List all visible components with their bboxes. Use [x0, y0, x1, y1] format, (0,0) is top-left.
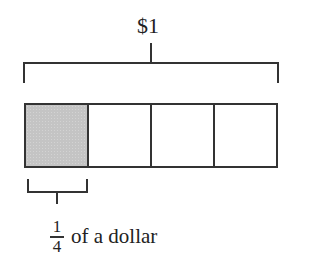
- whole-bracket-tick: [150, 43, 152, 63]
- part-label-text: of a dollar: [71, 224, 157, 248]
- fraction-bar: [24, 103, 278, 168]
- part-bracket-tick: [56, 191, 58, 204]
- fraction-denominator: 4: [50, 239, 64, 255]
- whole-bracket-right-leg: [277, 62, 279, 83]
- fraction-numerator: 1: [50, 219, 64, 235]
- bar-segment-1-shaded: [26, 105, 89, 166]
- bar-segment-4: [215, 105, 276, 166]
- bar-segment-2: [89, 105, 152, 166]
- whole-bracket-bar: [23, 62, 279, 64]
- whole-bracket-left-leg: [23, 62, 25, 83]
- total-label: $1: [128, 14, 168, 38]
- fraction-one-fourth: 1 4: [50, 219, 64, 255]
- bar-segment-3: [152, 105, 215, 166]
